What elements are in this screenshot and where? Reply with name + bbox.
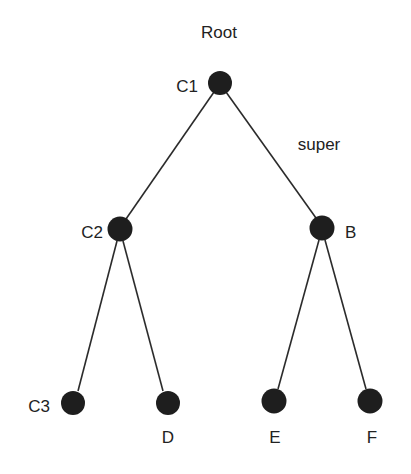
node-label-d: D [162,428,174,447]
node-label-c2: C2 [81,223,103,242]
node-c1 [208,71,232,95]
node-d [156,391,180,415]
node-b [310,216,335,241]
node-label-b: B [345,223,356,242]
edge-c2-c3 [78,241,117,391]
root-title: Root [201,23,237,42]
tree-diagram: Root super C1 C2 B C3 D E F [0,0,411,474]
node-c3 [61,391,85,415]
node-label-f: F [367,428,377,447]
node-label-e: E [269,428,280,447]
node-f [358,389,383,414]
node-c2 [108,217,133,242]
edge-b-f [325,240,366,389]
edge-b-e [278,240,319,389]
node-e [262,389,287,414]
edge-c1-c2 [126,92,214,219]
edge-c2-d [123,241,163,391]
edge-label-super: super [298,135,341,154]
edge-c1-b [226,92,316,218]
node-label-c3: C3 [28,397,50,416]
node-label-c1: C1 [176,77,198,96]
